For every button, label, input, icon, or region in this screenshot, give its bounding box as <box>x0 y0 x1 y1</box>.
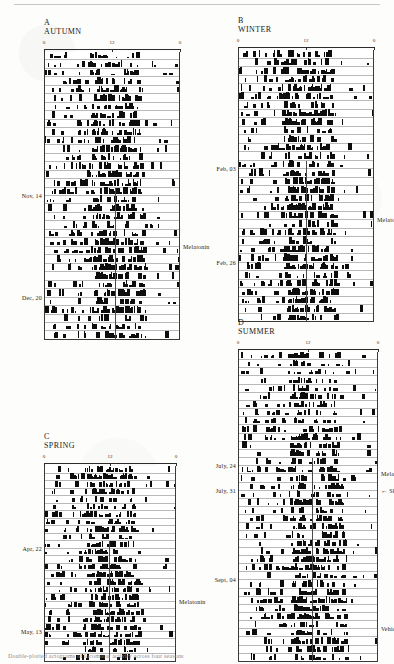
activity-bar <box>261 356 262 359</box>
activity-bar <box>273 67 276 73</box>
activity-bar <box>293 104 296 107</box>
activity-bar <box>253 51 255 56</box>
activity-bar <box>270 191 273 193</box>
activity-bar <box>74 250 78 253</box>
activity-bar <box>326 297 328 303</box>
activity-bar <box>319 137 321 142</box>
activity-bar <box>88 551 89 555</box>
activity-bar <box>73 512 74 517</box>
activity-bar <box>91 565 93 569</box>
activity-bar <box>116 264 117 270</box>
activity-bar <box>68 640 69 644</box>
activity-bar <box>132 488 135 494</box>
activity-bar <box>105 609 106 615</box>
activity-bar <box>303 429 306 432</box>
activity-bar <box>133 514 136 517</box>
activity-bar <box>118 572 122 577</box>
activity-bar <box>57 139 60 144</box>
activity-bar <box>317 245 319 252</box>
activity-bar <box>327 186 330 192</box>
activity-bar <box>314 607 315 611</box>
activity-bar <box>90 257 92 262</box>
activity-bar <box>55 105 56 109</box>
activity-bar <box>299 113 301 116</box>
activity-bar <box>367 154 370 159</box>
activity-bar <box>111 571 112 577</box>
activity-bar <box>297 372 301 375</box>
activity-bar <box>282 148 285 150</box>
activity-bar <box>375 638 377 644</box>
activity-bar <box>268 392 269 399</box>
activity-bar <box>335 501 337 505</box>
activity-bar <box>308 409 310 416</box>
activity-bar <box>297 276 299 278</box>
activity-bar <box>327 540 329 546</box>
activity-bar <box>284 136 285 142</box>
activity-bar <box>325 109 327 116</box>
activity-bar <box>318 395 322 399</box>
activity-bar <box>97 571 98 577</box>
activity-bar <box>87 513 88 517</box>
activity-bar <box>298 79 301 82</box>
activity-bar <box>86 191 89 194</box>
activity-bar <box>165 558 169 562</box>
activity-bar <box>280 469 284 472</box>
activity-bar <box>94 248 96 254</box>
activity-bar <box>121 268 123 270</box>
activity-bar <box>45 641 48 645</box>
activity-bar <box>137 582 141 585</box>
activity-bar <box>122 123 124 126</box>
activity-bar <box>108 199 110 202</box>
activity-bar <box>267 633 271 636</box>
activity-bar <box>66 249 69 253</box>
activity-bar <box>84 565 87 570</box>
activity-bar <box>283 206 284 209</box>
activity-bar <box>95 276 98 278</box>
activity-bar <box>45 632 47 637</box>
activity-bar <box>84 222 87 228</box>
activity-bar <box>90 529 92 531</box>
activity-bar <box>316 519 319 521</box>
activity-bar <box>86 557 90 562</box>
activity-bar <box>134 625 137 630</box>
activity-bar <box>251 559 253 562</box>
activity-bar <box>169 241 170 245</box>
activity-bar <box>294 518 296 521</box>
activity-bar <box>354 584 356 587</box>
activity-bar <box>270 555 273 562</box>
activity-bar <box>108 264 110 270</box>
activity-bar <box>286 535 290 538</box>
annotation-melatonin: Melatonin <box>377 217 394 224</box>
activity-bar <box>45 552 46 554</box>
activity-bar <box>304 633 306 635</box>
activity-bar <box>248 592 250 595</box>
activity-bar <box>278 386 282 391</box>
activity-bar <box>99 604 100 607</box>
activity-bar <box>277 187 279 193</box>
activity-bar <box>253 163 255 167</box>
activity-bar <box>293 380 295 383</box>
activity-bar <box>260 607 263 611</box>
activity-bar <box>97 69 100 75</box>
activity-bar <box>298 54 300 57</box>
actogram-row <box>239 605 377 613</box>
activity-bar <box>139 301 142 305</box>
activity-bar <box>91 192 95 194</box>
activity-bar <box>104 266 107 270</box>
panel-title-autumn: AUTUMN <box>44 27 180 37</box>
activity-bar <box>106 145 110 151</box>
activity-bar <box>326 280 328 286</box>
activity-bar <box>53 597 56 599</box>
activity-bar <box>309 426 313 432</box>
activity-bar <box>324 273 326 277</box>
activity-bar <box>319 559 323 562</box>
activity-bar <box>109 188 110 194</box>
activity-bar <box>83 216 85 219</box>
actogram-row <box>45 624 175 632</box>
activity-bar <box>164 140 168 143</box>
activity-bar <box>84 238 88 245</box>
activity-bar <box>288 371 290 374</box>
activity-bar <box>329 387 331 391</box>
activity-bar <box>302 641 305 644</box>
activity-bar <box>309 402 310 407</box>
